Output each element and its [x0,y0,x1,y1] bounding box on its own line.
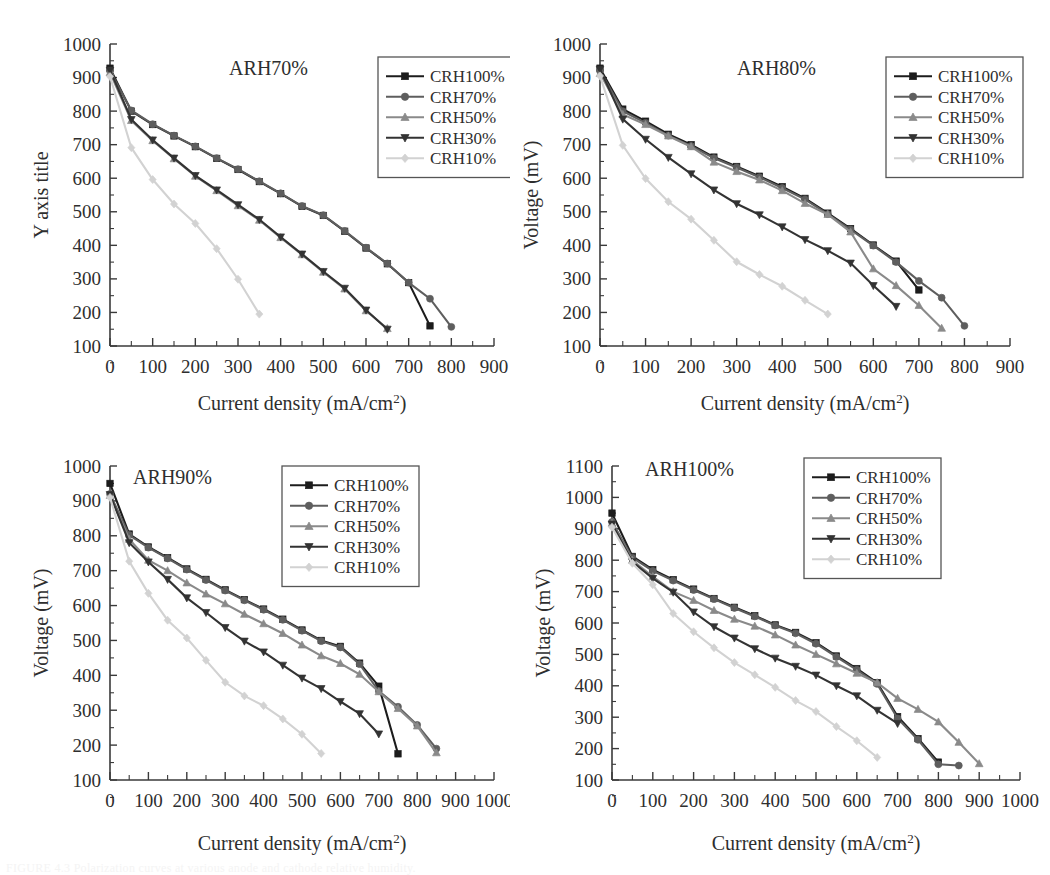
y-tick-label: 600 [575,613,604,634]
data-point-circle [203,577,210,584]
y-axis-title: Voltage (mV) [30,568,53,677]
y-tick-label: 1100 [566,456,603,477]
data-point-circle [279,616,286,623]
data-point-circle [827,494,834,501]
y-tick-label: 200 [575,738,604,759]
x-tick-label: 300 [224,356,253,377]
y-tick-label: 300 [575,707,604,728]
x-axis-title: Current density (mA/cm2) [712,831,921,855]
data-point-circle [670,577,677,584]
x-tick-label: 500 [814,356,843,377]
x-tick-label: 500 [309,356,338,377]
y-tick-label: 700 [575,581,604,602]
data-point-square [609,510,615,516]
x-tick-label: 600 [352,356,381,377]
y-tick-label: 600 [563,168,592,189]
y-tick-label: 700 [73,560,102,581]
legend-label: CRH10% [856,550,922,569]
data-point-diamond [756,271,763,279]
data-point-circle [384,260,391,267]
y-tick-label: 900 [73,67,102,88]
data-point-circle [299,627,306,634]
data-point-circle [149,121,156,128]
series-crh30 [106,67,391,333]
y-tick-label: 1000 [63,456,101,477]
data-point-diamond [824,310,831,318]
x-tick-label: 600 [859,356,888,377]
data-point-circle [893,259,900,266]
x-tick-label: 200 [173,790,202,811]
legend-label: CRH100% [334,476,409,495]
data-point-circle [961,322,968,329]
x-tick-label: 600 [326,790,355,811]
x-tick-label: 1000 [475,790,510,811]
x-tick-label: 700 [883,790,912,811]
x-axis-title-tail: ) [903,392,910,415]
y-tick-label: 500 [73,201,102,222]
data-point-circle [164,555,171,562]
x-tick-label: 300 [211,790,240,811]
y-tick-label: 800 [73,525,102,546]
y-tick-label: 100 [563,336,592,357]
data-point-circle [401,93,408,100]
data-point-circle [145,544,152,551]
x-tick-label: 400 [249,790,278,811]
series-crh30 [596,66,900,310]
y-tick-label: 600 [73,168,102,189]
data-point-triangle-down [894,720,902,727]
legend-label: CRH10% [430,149,496,168]
chart-panel-arh80: 1002003004005006007008009001000010020030… [516,14,1050,424]
x-tick-label: 400 [768,356,797,377]
data-point-circle [222,587,229,594]
x-tick-label: 900 [480,356,509,377]
x-axis-title: Current density (mA/cm2) [701,391,910,415]
x-tick-label: 500 [288,790,317,811]
y-tick-label: 800 [73,101,102,122]
y-tick-label: 900 [73,490,102,511]
y-tick-label: 1000 [553,34,591,55]
y-tick-label: 900 [575,518,604,539]
data-point-circle [870,242,877,249]
y-tick-label: 400 [73,665,102,686]
data-point-triangle-down [892,303,900,310]
x-tick-label: 100 [631,356,660,377]
legend: CRH100%CRH70%CRH50%CRH30%CRH10% [282,466,419,587]
legend: CRH100%CRH70%CRH50%CRH30%CRH10% [886,57,1023,178]
data-point-circle [915,277,922,284]
x-axis-title: Current density (mA/cm2) [198,831,407,855]
y-tick-label: 700 [563,134,592,155]
x-tick-label: 400 [761,790,790,811]
data-point-circle [299,203,306,210]
x-tick-label: 200 [181,356,210,377]
x-axis-title: Current density (mA/cm2) [198,391,407,415]
y-tick-label: 500 [575,644,604,665]
legend: CRH100%CRH70%CRH50%CRH30%CRH10% [378,57,510,178]
data-point-circle [405,279,412,286]
data-point-circle [277,190,284,197]
x-tick-label: 0 [595,356,605,377]
data-point-square [916,287,922,293]
x-tick-label: 0 [105,790,115,811]
data-point-circle [256,178,263,185]
data-point-circle [235,166,242,173]
data-point-circle [241,597,248,604]
x-tick-label: 100 [639,790,668,811]
data-point-circle [935,761,942,768]
data-point-circle [792,630,799,637]
y-tick-label: 800 [575,550,604,571]
data-point-circle [690,587,697,594]
y-tick-label: 400 [73,235,102,256]
x-tick-label: 300 [722,356,751,377]
series-line [600,76,828,314]
y-tick-label: 500 [563,201,592,222]
legend-label: CRH10% [938,149,1004,168]
x-tick-label: 200 [677,356,706,377]
chart-panel-arh70: 1002003004005006007008009001000010020030… [10,14,510,424]
panel-title: ARH100% [645,458,734,480]
x-axis-title-tail: ) [400,832,407,855]
y-tick-label: 100 [575,770,604,791]
figure-page: 1002003004005006007008009001000010020030… [0,0,1050,875]
x-tick-label: 0 [607,790,617,811]
legend-label: CRH70% [334,497,400,516]
data-point-circle [356,661,363,668]
